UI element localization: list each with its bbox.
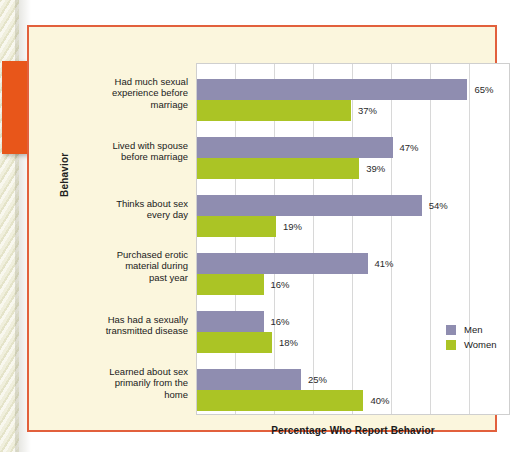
bar-women-0	[197, 100, 351, 121]
bar-women-5	[197, 390, 363, 411]
bar-value-label: 25%	[308, 369, 327, 390]
bar-value-label: 47%	[400, 137, 419, 158]
gridline	[352, 64, 353, 414]
men-color-swatch	[446, 325, 456, 335]
category-label: Purchased erotic material during past ye…	[76, 249, 188, 283]
bar-men-0	[197, 79, 467, 100]
category-label: Had much sexual experience before marria…	[76, 76, 188, 110]
bar-men-4	[197, 311, 264, 332]
x-axis-title: Percentage Who Report Behavior	[196, 425, 510, 436]
bar-value-label: 54%	[429, 195, 448, 216]
bar-value-label: 19%	[283, 216, 302, 237]
bar-women-1	[197, 158, 359, 179]
bar-women-4	[197, 332, 272, 353]
category-label: Has had a sexually transmitted disease	[76, 314, 188, 337]
category-label: Thinks about sex every day	[76, 198, 188, 221]
bar-women-2	[197, 216, 276, 237]
bar-men-3	[197, 253, 368, 274]
bar-value-label: 16%	[271, 311, 290, 332]
bar-men-5	[197, 369, 301, 390]
y-axis-title: Behavior	[59, 153, 70, 197]
bar-value-label: 16%	[271, 274, 290, 295]
bar-women-3	[197, 274, 264, 295]
gridline	[430, 64, 431, 414]
bar-men-2	[197, 195, 422, 216]
legend-item-women[interactable]: Women	[446, 337, 497, 352]
category-label: Lived with spouse before marriage	[76, 140, 188, 163]
category-label: Learned about sex primarily from the hom…	[76, 366, 188, 400]
figure-panel: Behavior Had much sexual experience befo…	[27, 25, 497, 432]
bar-value-label: 18%	[279, 332, 298, 353]
gridline	[469, 64, 470, 414]
chart-legend: MenWomen	[446, 322, 497, 352]
bar-value-label: 41%	[375, 253, 394, 274]
bar-value-label: 37%	[358, 100, 377, 121]
bar-value-label: 39%	[366, 158, 385, 179]
plot-area: 65%47%54%41%16%25%37%39%19%16%18%40% Men…	[196, 63, 510, 415]
legend-item-men[interactable]: Men	[446, 322, 497, 337]
women-color-swatch	[446, 340, 456, 350]
bar-value-label: 40%	[370, 390, 389, 411]
bar-value-label: 65%	[474, 79, 493, 100]
gridline	[391, 64, 392, 414]
legend-label: Women	[464, 339, 497, 350]
category-label-list: Had much sexual experience before marria…	[76, 55, 188, 405]
legend-label: Men	[464, 324, 482, 335]
bar-men-1	[197, 137, 393, 158]
